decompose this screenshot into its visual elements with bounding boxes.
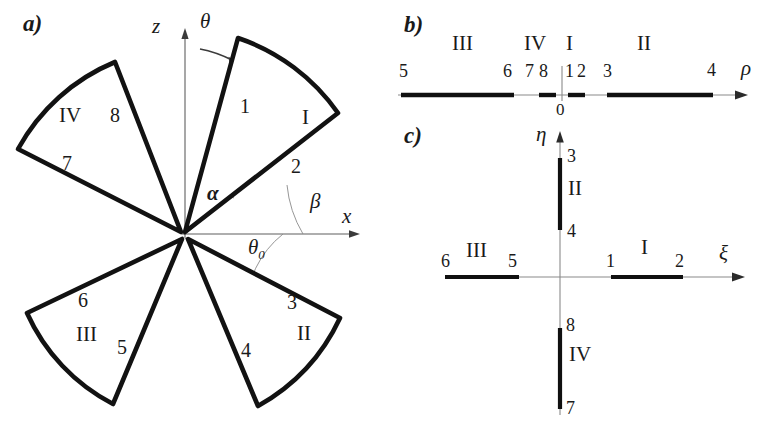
edge-label-3: 3 <box>287 292 297 312</box>
theta0-subscript: 0 <box>258 247 265 262</box>
sector-label-III: III <box>76 324 97 345</box>
figure-vector-layer <box>0 0 769 428</box>
sector-label-IV: IV <box>59 105 81 126</box>
alpha-angle-label: α <box>207 183 219 204</box>
beta-arc <box>287 185 303 234</box>
panel-b-tag: b) <box>404 13 423 36</box>
theta-axis-label: θ <box>200 11 210 32</box>
panel-c-tick-7: 7 <box>566 399 575 417</box>
panel-c-tag: c) <box>404 124 422 147</box>
panel-b-tick-6: 6 <box>503 62 512 80</box>
panel-b-tick-1: 1 <box>565 62 574 80</box>
panel-c-roman-I: I <box>641 237 648 258</box>
xi-axis-arrowhead <box>732 273 745 282</box>
edge-label-2: 2 <box>291 156 301 176</box>
panel-c-tick-6: 6 <box>441 252 450 270</box>
panel-c-tick-5: 5 <box>508 252 517 270</box>
panel-c-tick-4: 4 <box>567 222 576 240</box>
sector-III-wedge <box>27 239 182 404</box>
x-axis-label: x <box>342 206 351 227</box>
z-axis-arrowhead <box>181 28 188 39</box>
panel-b-roman-IV: IV <box>524 33 546 54</box>
panel-c-tick-2: 2 <box>675 252 684 270</box>
edge-label-7: 7 <box>62 153 72 173</box>
edge-label-6: 6 <box>78 290 88 310</box>
rho-axis-label: ρ <box>741 58 751 79</box>
sector-II-wedge <box>188 239 340 406</box>
sector-label-II: II <box>297 323 311 344</box>
panel-c-segments <box>445 158 683 409</box>
edge-label-8: 8 <box>110 105 120 125</box>
edge-label-4: 4 <box>241 340 251 360</box>
panel-b-tick-4: 4 <box>707 61 716 79</box>
panel-c-roman-II: II <box>568 178 582 199</box>
panel-b-tick-3: 3 <box>603 62 612 80</box>
panel-b-roman-III: III <box>452 33 473 54</box>
theta-curved-arrow-shaft <box>200 49 232 60</box>
panel-b-tick-7: 7 <box>525 62 534 80</box>
panel-b-roman-II: II <box>637 33 651 54</box>
figure-canvas: a) z x θ α β θ0 I 1 2 II 3 4 III 5 6 IV … <box>0 0 769 428</box>
panel-c-roman-IV: IV <box>569 344 591 365</box>
panel-c-tick-3: 3 <box>567 147 576 165</box>
rho-axis-arrowhead <box>735 91 748 100</box>
sector-IV-wedge <box>18 62 181 232</box>
eta-axis-arrowhead <box>556 131 564 143</box>
sector-IV-outline <box>18 62 181 232</box>
sector-III-outline <box>27 239 182 404</box>
edge-label-1: 1 <box>240 96 250 116</box>
sector-label-I: I <box>302 107 309 128</box>
panel-b-tick-2: 2 <box>577 62 586 80</box>
panel-c-tick-8: 8 <box>566 316 575 334</box>
theta0-angle-label: θ0 <box>248 237 265 261</box>
panel-c-tick-1: 1 <box>606 252 615 270</box>
panel-c-axes <box>445 131 745 415</box>
beta-angle-label: β <box>310 191 320 212</box>
edge-label-5: 5 <box>117 337 127 357</box>
z-axis-label: z <box>152 16 160 37</box>
panel-b-tick-8: 8 <box>539 62 548 80</box>
theta0-symbol: θ <box>248 235 258 259</box>
xi-axis-label: ξ <box>719 243 728 264</box>
x-axis-arrowhead <box>349 230 360 237</box>
eta-axis-label: η <box>536 124 546 145</box>
panel-b-roman-I: I <box>566 33 573 54</box>
panel-c-roman-III: III <box>466 240 487 261</box>
panel-b-tick-5: 5 <box>399 62 408 80</box>
panel-b-origin-label: 0 <box>556 101 565 118</box>
sector-II-outline <box>188 239 340 406</box>
panel-a-tag: a) <box>23 12 42 35</box>
